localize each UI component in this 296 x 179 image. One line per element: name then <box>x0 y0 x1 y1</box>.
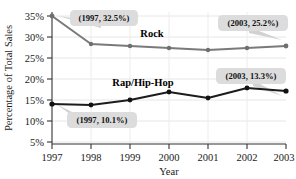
x-tick-label: 1997 <box>42 152 63 163</box>
x-tick-label: 1998 <box>81 152 102 163</box>
rap-point <box>49 101 54 106</box>
callout-label: (2003, 25.2%) <box>228 18 279 28</box>
x-tick-label: 1999 <box>120 152 141 163</box>
callout-label: (1997, 10.1%) <box>77 115 128 125</box>
rock-point <box>206 48 210 52</box>
y-tick-label: 10% <box>25 116 45 127</box>
callout-rap-first: (1997, 10.1%) <box>67 112 137 128</box>
y-tick-label: 5% <box>30 137 44 148</box>
x-tick-marks <box>52 144 286 149</box>
x-tick-labels: 1997 1998 1999 2000 2001 2002 2003 <box>42 152 295 163</box>
x-tick-label: 2000 <box>159 152 180 163</box>
y-tick-label: 25% <box>25 53 45 64</box>
rap-point <box>283 88 288 93</box>
callout-rock-first: (1997, 32.5%) <box>70 10 138 26</box>
x-tick-label: 2003 <box>274 152 295 163</box>
rock-point <box>167 46 171 50</box>
callout-rock-last: (2003, 25.2%) <box>218 15 288 31</box>
rap-point <box>89 103 94 108</box>
series-label-rock: Rock <box>140 28 163 39</box>
rap-point <box>167 90 172 95</box>
y-tick-marks <box>47 16 52 142</box>
y-tick-label: 35% <box>25 11 45 22</box>
rock-point <box>284 44 289 49</box>
callout-rap-last: (2003, 13.3%) <box>216 68 286 84</box>
y-tick-label: 30% <box>25 32 45 43</box>
y-tick-labels: 35% 30% 25% 20% 15% 10% 5% <box>25 11 45 148</box>
y-tick-label: 15% <box>25 95 45 106</box>
x-axis-title: Year <box>159 166 179 177</box>
rap-point <box>128 98 133 103</box>
rap-point <box>245 86 250 91</box>
line-chart: 35% 30% 25% 20% 15% 10% 5% 1997 1998 199… <box>0 0 296 179</box>
x-tick-label: 2002 <box>237 152 258 163</box>
series-label-rap: Rap/Hip-Hop <box>112 77 173 88</box>
rap-point <box>206 96 211 101</box>
rock-point <box>50 14 55 19</box>
rock-point <box>128 44 132 48</box>
x-tick-label: 2001 <box>198 152 219 163</box>
y-axis-title: Percentage of Total Sales <box>3 25 14 131</box>
y-tick-label: 20% <box>25 74 45 85</box>
rock-point <box>89 42 93 46</box>
rock-point <box>245 46 249 50</box>
chart-container: 35% 30% 25% 20% 15% 10% 5% 1997 1998 199… <box>0 0 296 179</box>
callout-label: (1997, 32.5%) <box>79 13 130 23</box>
callout-label: (2003, 13.3%) <box>226 71 277 81</box>
